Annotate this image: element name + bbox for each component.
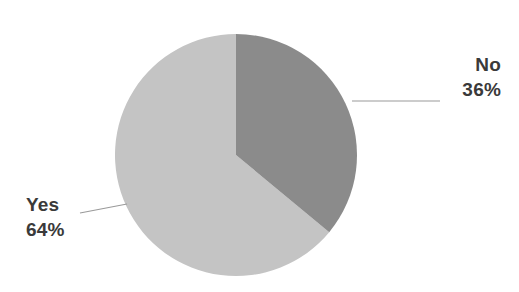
pie-label-no-name: No [462,52,501,77]
pie-label-yes-name: Yes [26,192,65,217]
pie-chart-figure: No 36% Yes 64% [0,0,519,292]
pie-label-no-percent: 36% [462,77,501,102]
pie-label-yes: Yes 64% [26,192,65,242]
pie-chart-graphic [0,0,519,292]
pie-label-no: No 36% [462,52,501,102]
leader-line-yes [80,204,127,213]
pie-label-yes-percent: 64% [26,217,65,242]
